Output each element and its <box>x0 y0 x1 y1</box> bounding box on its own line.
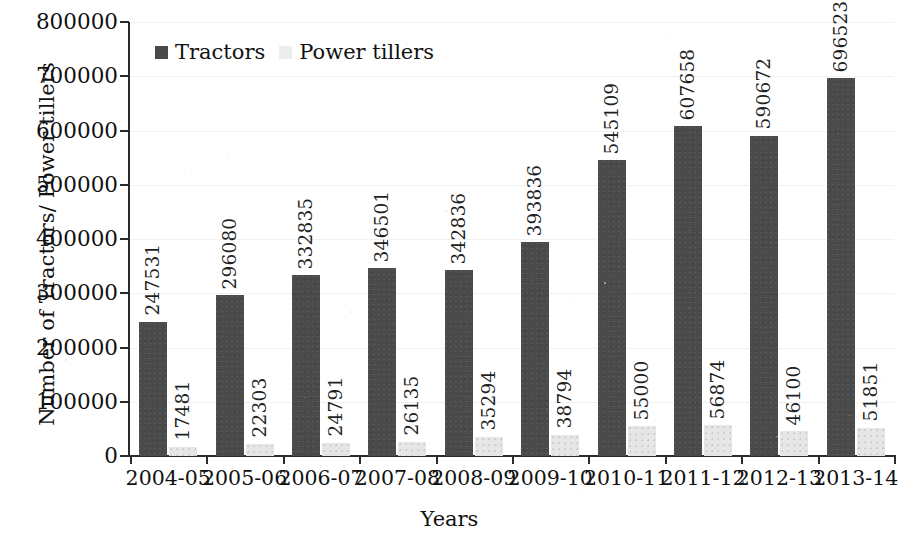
x-axis-tick <box>283 455 285 464</box>
x-axis-tick <box>130 455 132 464</box>
x-axis-tick <box>894 455 896 464</box>
y-axis-tick-label: 200000 <box>30 337 118 359</box>
x-axis-tick-label: 2010-11 <box>584 466 669 490</box>
x-axis-tick <box>436 455 438 464</box>
legend-label-power-tillers: Power tillers <box>299 40 434 64</box>
bar-group: 60765856874 <box>665 22 741 456</box>
y-axis-tick-labels: 0100000200000300000400000500000600000700… <box>30 0 118 533</box>
x-axis-tick-label: 2012-13 <box>737 466 822 490</box>
bar-power-tillers[interactable] <box>246 444 274 456</box>
scan-speckle <box>1 224 2 225</box>
legend-item-tractors[interactable]: Tractors <box>155 40 265 64</box>
bar-tractors[interactable] <box>598 160 626 456</box>
legend: Tractors Power tillers <box>155 40 434 64</box>
scan-speckle <box>500 497 501 498</box>
x-axis-tick-label: 2004-05 <box>126 466 211 490</box>
x-axis-tick-label: 2009-10 <box>508 466 593 490</box>
bar-value-label-power-tillers: 51851 <box>861 362 880 422</box>
bar-group: 29608022303 <box>206 22 282 456</box>
bar-power-tillers[interactable] <box>475 437 503 456</box>
bar-value-label-power-tillers: 55000 <box>632 360 651 420</box>
bar-group: 34650126135 <box>359 22 435 456</box>
x-axis-tick-label: 2006-07 <box>278 466 363 490</box>
bar-chart: Number of Tractors/ Power tillers 010000… <box>0 0 899 533</box>
x-axis-tick <box>665 455 667 464</box>
bar-tractors[interactable] <box>674 126 702 456</box>
bar-value-label-power-tillers: 46100 <box>785 365 804 425</box>
x-axis-title: Years <box>0 507 899 531</box>
plot-area: 2475311748129608022303332835247913465012… <box>130 22 894 456</box>
bar-group: 54510955000 <box>588 22 664 456</box>
scan-speckle <box>132 15 134 17</box>
bar-tractors[interactable] <box>521 242 549 456</box>
bar-tractors[interactable] <box>216 295 244 456</box>
bar-power-tillers[interactable] <box>628 426 656 456</box>
x-axis-tick-label: 2008-09 <box>431 466 516 490</box>
bar-group: 24753117481 <box>130 22 206 456</box>
y-axis-tick-label: 400000 <box>30 228 118 250</box>
bar-value-label-power-tillers: 22303 <box>250 378 269 438</box>
bar-power-tillers[interactable] <box>857 428 885 456</box>
x-axis-tick <box>359 455 361 464</box>
bar-power-tillers[interactable] <box>780 431 808 456</box>
bar-group: 34283635294 <box>436 22 512 456</box>
y-axis-tick-label: 500000 <box>30 174 118 196</box>
bar-value-label-power-tillers: 38794 <box>556 369 575 429</box>
dark-square-icon <box>155 46 168 59</box>
legend-label-tractors: Tractors <box>175 40 265 64</box>
bar-value-label-tractors: 393836 <box>526 165 545 237</box>
bar-tractors[interactable] <box>445 270 473 456</box>
bar-value-label-tractors: 607658 <box>678 49 697 121</box>
bar-tractors[interactable] <box>750 136 778 456</box>
bar-value-label-tractors: 342836 <box>449 192 468 264</box>
x-axis-tick-labels: 2004-052005-062006-072007-082008-092009-… <box>130 466 894 496</box>
bar-power-tillers[interactable] <box>322 443 350 456</box>
y-axis-tick-label: 0 <box>30 445 118 467</box>
bar-group: 59067246100 <box>741 22 817 456</box>
x-axis-tick <box>818 455 820 464</box>
bar-tractors[interactable] <box>368 268 396 456</box>
bar-value-label-tractors: 247531 <box>144 244 163 316</box>
bar-value-label-power-tillers: 26135 <box>403 376 422 436</box>
bar-tractors[interactable] <box>827 78 855 456</box>
y-axis-tick-label: 800000 <box>30 11 118 33</box>
bar-power-tillers[interactable] <box>398 442 426 456</box>
bar-power-tillers[interactable] <box>551 435 579 456</box>
x-axis-tick-label: 2007-08 <box>355 466 440 490</box>
y-axis-tick-label: 300000 <box>30 283 118 305</box>
bar-power-tillers[interactable] <box>169 447 197 456</box>
y-axis-tick-label: 700000 <box>30 66 118 88</box>
x-axis-tick-label: 2013-14 <box>813 466 898 490</box>
light-square-icon <box>279 46 292 59</box>
bar-group: 69652351851 <box>818 22 894 456</box>
bar-value-label-power-tillers: 24791 <box>326 377 345 437</box>
scan-speckle <box>122 353 124 355</box>
bar-value-label-tractors: 296080 <box>220 218 239 290</box>
bar-value-label-power-tillers: 17481 <box>174 381 193 441</box>
bar-value-label-tractors: 346501 <box>373 190 392 262</box>
legend-item-power-tillers[interactable]: Power tillers <box>279 40 434 64</box>
bar-group: 39383638794 <box>512 22 588 456</box>
y-axis-tick-label: 100000 <box>30 391 118 413</box>
bar-value-label-power-tillers: 56874 <box>708 359 727 419</box>
x-axis-tick-label: 2005-06 <box>202 466 287 490</box>
bar-value-label-tractors: 545109 <box>602 82 621 154</box>
bar-value-label-power-tillers: 35294 <box>479 371 498 431</box>
x-axis-tick <box>741 455 743 464</box>
bar-value-label-tractors: 696523 <box>831 0 850 72</box>
bar-group: 33283524791 <box>283 22 359 456</box>
x-axis-tick-label: 2011-12 <box>660 466 745 490</box>
x-axis-tick <box>512 455 514 464</box>
scan-speckle <box>555 0 556 1</box>
bar-tractors[interactable] <box>292 275 320 456</box>
bar-value-label-tractors: 332835 <box>296 198 315 270</box>
y-axis-tick-label: 600000 <box>30 120 118 142</box>
bar-power-tillers[interactable] <box>704 425 732 456</box>
x-axis-tick <box>588 455 590 464</box>
bar-tractors[interactable] <box>139 322 167 456</box>
x-axis-tick <box>206 455 208 464</box>
bar-value-label-tractors: 590672 <box>755 58 774 130</box>
